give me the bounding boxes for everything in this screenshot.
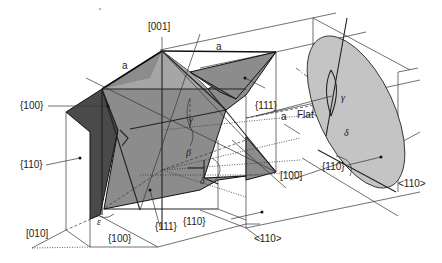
label-angle-epsilon: ε [97, 216, 101, 227]
crystal-orientation-diagram: [001] a a {111} a Flat {100} {110} [010]… [0, 0, 442, 263]
label-dir-010: [010] [26, 228, 48, 239]
label-face-111-front: {111} [155, 221, 178, 232]
label-face-110-wafer: {110} [322, 161, 345, 172]
label-edge-a-left: a [122, 60, 128, 71]
crystal-faces [66, 51, 276, 219]
label-angle-delta-center: δ [200, 175, 205, 186]
label-face-111-top: {111} [255, 100, 278, 111]
label-dir-110-bottom: <110> [254, 233, 282, 244]
label-dir-001: [001] [148, 21, 170, 32]
label-face-110-bottom: {110} [183, 216, 206, 227]
label-edge-a-top: a [216, 41, 222, 52]
label-angle-delta-wafer: δ [344, 127, 349, 138]
label-dir-110-right: <110> [398, 178, 426, 189]
label-edge-a-right: a [281, 111, 287, 122]
label-dir-100: [100] [280, 170, 302, 181]
label-flat: Flat [297, 109, 314, 120]
label-face-100-bottom: {100} [108, 233, 132, 244]
label-face-110-left: {110} [20, 159, 43, 170]
label-face-100-left: {100} [20, 100, 44, 111]
label-angle-beta: β [185, 147, 191, 158]
